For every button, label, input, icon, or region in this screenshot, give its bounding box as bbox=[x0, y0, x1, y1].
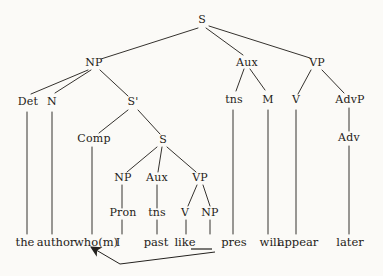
tree-branch-line bbox=[206, 28, 243, 55]
node-label-tns-main: tns bbox=[225, 93, 243, 106]
tree-branch-line bbox=[203, 185, 210, 206]
node-label-det: Det bbox=[18, 95, 39, 108]
node-label-advp: AdvP bbox=[334, 93, 365, 106]
tree-branch-line bbox=[158, 147, 162, 172]
tree-branch-line bbox=[101, 28, 198, 59]
tree-branch-line bbox=[100, 70, 128, 96]
terminal-word-past: past bbox=[144, 235, 169, 249]
node-label-np-object: NP bbox=[201, 206, 219, 219]
node-label-vp-main: VP bbox=[308, 56, 325, 69]
terminal-word-whom: who(m) bbox=[74, 235, 118, 249]
tree-branch-line bbox=[236, 69, 244, 91]
node-label-s-embedded: S bbox=[159, 133, 167, 146]
node-label-np-embedded: NP bbox=[114, 171, 132, 184]
node-label-np-subject: NP bbox=[85, 56, 103, 69]
node-label-pron: Pron bbox=[109, 206, 136, 219]
terminal-word-the: the bbox=[16, 235, 35, 249]
tree-content: SNPAuxVPDetNS'tnsMVAdvPCompSAdvNPAuxVPPr… bbox=[16, 13, 366, 264]
node-label-aux-main: Aux bbox=[235, 56, 258, 69]
node-label-aux-embedded: Aux bbox=[145, 171, 168, 184]
tree-branch-line bbox=[188, 185, 197, 206]
node-label-tns-embedded: tns bbox=[148, 206, 166, 219]
terminal-word-pres: pres bbox=[221, 235, 247, 249]
node-label-v-embedded: V bbox=[180, 206, 190, 219]
node-label-m: M bbox=[262, 93, 273, 106]
terminal-word-like: like bbox=[174, 235, 195, 249]
node-label-v-main: V bbox=[291, 93, 301, 106]
node-label-s-root: S bbox=[198, 13, 206, 26]
tree-branch-line bbox=[298, 70, 311, 94]
node-label-s-bar: S' bbox=[128, 95, 139, 108]
node-label-n: N bbox=[47, 95, 57, 108]
node-label-adv: Adv bbox=[337, 131, 360, 144]
tree-branch-line bbox=[250, 69, 265, 90]
terminal-word-appear: appear bbox=[278, 235, 319, 249]
tree-branch-line bbox=[322, 70, 344, 93]
tree-branch-line bbox=[209, 26, 310, 58]
node-label-comp: Comp bbox=[77, 132, 110, 145]
tree-branch-line bbox=[138, 110, 160, 134]
tree-branch-line bbox=[167, 147, 196, 172]
terminal-word-later: later bbox=[336, 235, 364, 249]
tree-branch-line bbox=[127, 147, 157, 172]
syntax-tree-svg: SNPAuxVPDetNS'tnsMVAdvPCompSAdvNPAuxVPPr… bbox=[0, 0, 383, 276]
tree-branch-line bbox=[99, 110, 128, 133]
syntax-tree-figure: SNPAuxVPDetNS'tnsMVAdvPCompSAdvNPAuxVPPr… bbox=[0, 0, 383, 276]
node-label-vp-embedded: VP bbox=[191, 171, 208, 184]
terminal-word-author: author bbox=[37, 235, 76, 249]
terminal-word-i: I bbox=[116, 235, 121, 249]
